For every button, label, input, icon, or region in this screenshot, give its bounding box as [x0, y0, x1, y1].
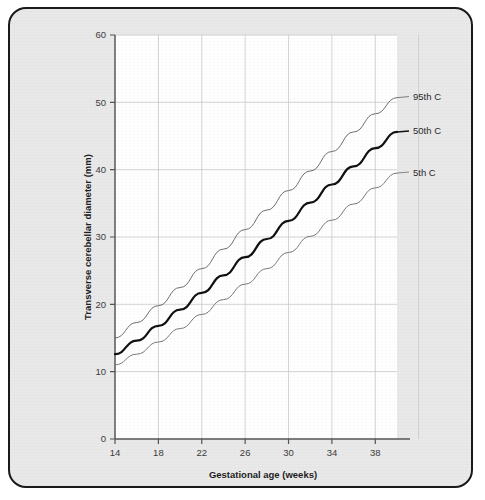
y-tick-label: 30 — [95, 231, 106, 242]
x-tick-label: 38 — [370, 447, 381, 458]
x-axis-ticks — [115, 439, 375, 444]
chart-figure: 0102030405060 14182226303438 95th C50th … — [10, 9, 473, 488]
page-root: 0102030405060 14182226303438 95th C50th … — [0, 0, 485, 500]
series-label-50th-c: 50th C — [413, 125, 441, 136]
x-tick-label: 22 — [196, 447, 207, 458]
y-tick-label: 20 — [95, 299, 106, 310]
x-tick-label: 14 — [110, 447, 121, 458]
series-label-5th-c: 5th C — [413, 167, 436, 178]
y-tick-label: 10 — [95, 366, 106, 377]
series-leader-line — [397, 172, 409, 173]
series-leader-line — [397, 97, 409, 98]
figure-card: 0102030405060 14182226303438 95th C50th … — [8, 7, 473, 488]
x-tick-label: 18 — [153, 447, 164, 458]
series-leader-line — [397, 131, 409, 132]
y-axis-ticks — [110, 35, 115, 439]
y-tick-label: 50 — [95, 97, 106, 108]
x-tick-label: 30 — [283, 447, 294, 458]
x-tick-label: 26 — [240, 447, 251, 458]
x-axis-title: Gestational age (weeks) — [209, 469, 317, 480]
x-axis-tick-labels: 14182226303438 — [110, 447, 381, 458]
series-label-95th-c: 95th C — [413, 91, 441, 102]
chart-svg: 0102030405060 14182226303438 95th C50th … — [10, 9, 473, 488]
y-tick-label: 60 — [95, 29, 106, 40]
y-tick-label: 0 — [101, 433, 106, 444]
x-tick-label: 34 — [327, 447, 338, 458]
y-axis-title: Transverse cerebellar diameter (mm) — [82, 154, 93, 320]
y-axis-tick-labels: 0102030405060 — [95, 29, 106, 444]
y-tick-label: 40 — [95, 164, 106, 175]
